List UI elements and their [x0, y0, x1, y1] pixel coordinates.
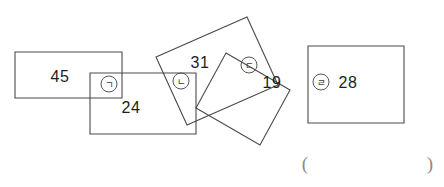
area-label-28: 28	[339, 74, 358, 91]
marker-glyph-rieul: ㄹ	[317, 77, 326, 88]
area-label-45: 45	[51, 68, 70, 85]
answer-open-paren: (	[302, 153, 308, 175]
circled-digeut-marker: ㄷ	[241, 57, 257, 73]
marker-glyph-digeut: ㄷ	[245, 60, 254, 71]
circled-nieun-marker: ㄴ	[173, 73, 189, 89]
rectangle-31-outline	[156, 17, 278, 125]
rectangle-19-outline	[196, 53, 290, 145]
overlapping-rectangles-diagram: 45 24 31 19 28 ㄱ ㄴ ㄷ ㄹ ( )	[0, 0, 444, 187]
marker-glyph-nieun: ㄴ	[177, 76, 186, 87]
answer-close-paren: )	[427, 153, 433, 175]
area-label-24: 24	[122, 99, 141, 116]
marker-glyph-giyeok: ㄱ	[105, 79, 114, 90]
figure-canvas: 45 24 31 19 28 ㄱ ㄴ ㄷ ㄹ ( )	[0, 0, 444, 187]
area-label-19: 19	[263, 74, 282, 91]
area-label-31: 31	[191, 54, 210, 71]
circled-giyeok-marker: ㄱ	[101, 76, 117, 92]
circled-rieul-marker: ㄹ	[313, 74, 329, 90]
